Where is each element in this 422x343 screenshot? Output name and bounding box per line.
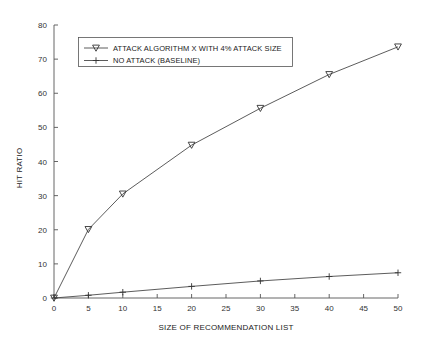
y-tick-label: 80: [38, 21, 47, 30]
legend-item-1: ATTACK ALGORITHM X WITH 4% ATTACK SIZE: [84, 44, 282, 53]
x-axis-ticks: [54, 294, 398, 298]
x-tick-label: 20: [187, 304, 196, 313]
y-tick-label: 60: [38, 89, 47, 98]
y-tick-label: 10: [38, 260, 47, 269]
line-chart: 01020304050607080 05101520253035404550 H…: [0, 0, 422, 343]
x-tick-label: 25: [222, 304, 231, 313]
y-tick-label: 0: [43, 294, 48, 303]
y-tick-label: 30: [38, 192, 47, 201]
x-tick-label: 10: [118, 304, 127, 313]
y-tick-label: 50: [38, 123, 47, 132]
x-tick-label: 30: [256, 304, 265, 313]
x-tick-label: 50: [394, 304, 403, 313]
x-tick-label: 40: [325, 304, 334, 313]
x-tick-label: 0: [52, 304, 57, 313]
legend-label: ATTACK ALGORITHM X WITH 4% ATTACK SIZE: [113, 44, 282, 53]
x-axis-title: SIZE OF RECOMMENDATION LIST: [158, 323, 293, 332]
chart-legend: ATTACK ALGORITHM X WITH 4% ATTACK SIZENO…: [79, 38, 293, 67]
x-tick-label: 5: [86, 304, 91, 313]
y-axis-title: HIT RATIO: [15, 148, 24, 189]
x-tick-label: 45: [359, 304, 368, 313]
y-tick-label: 40: [38, 158, 47, 167]
x-tick-label: 15: [153, 304, 162, 313]
y-tick-label: 20: [38, 226, 47, 235]
series-1: [51, 44, 402, 301]
legend-label: NO ATTACK (BASELINE): [113, 56, 201, 65]
series-line-1: [54, 47, 398, 298]
x-axis-tick-labels: 05101520253035404550: [52, 304, 403, 313]
chart-figure: 01020304050607080 05101520253035404550 H…: [0, 0, 422, 343]
y-axis-ticks: [54, 25, 58, 298]
y-axis-tick-labels: 01020304050607080: [38, 21, 47, 303]
y-tick-label: 70: [38, 55, 47, 64]
x-tick-label: 35: [290, 304, 299, 313]
chart-series-layer: [51, 44, 402, 301]
